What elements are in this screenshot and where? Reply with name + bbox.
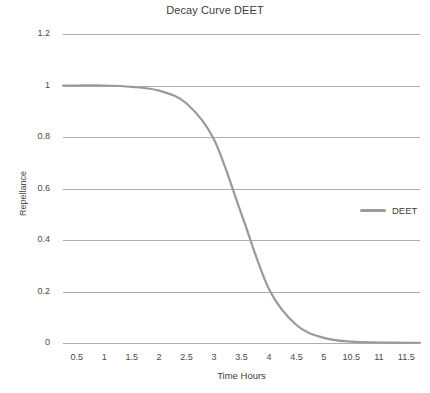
x-tick-label: 11 xyxy=(374,352,383,362)
x-tick-label: 5 xyxy=(321,352,326,362)
legend-label-deet: DEET xyxy=(392,205,417,216)
y-axis-tick-labels: 00.20.40.60.811.2 xyxy=(0,0,58,393)
x-tick-label: 2.5 xyxy=(180,352,193,362)
plot-area xyxy=(63,34,420,343)
chart-title: Decay Curve DEET xyxy=(0,4,430,16)
legend-swatch-deet xyxy=(360,209,386,212)
chart-legend: DEET xyxy=(360,205,417,216)
x-tick-label: 0.5 xyxy=(70,352,83,362)
x-axis-tick-labels: 0.511.522.533.544.5510.51111.5 xyxy=(63,352,420,366)
y-tick-label: 0 xyxy=(0,337,58,347)
x-tick-label: 4 xyxy=(266,352,271,362)
chart-container: Decay Curve DEET Repellance 00.20.40.60.… xyxy=(0,0,430,393)
x-tick-label: 1 xyxy=(102,352,107,362)
x-tick-label: 4.5 xyxy=(290,352,303,362)
x-tick-label: 3 xyxy=(212,352,217,362)
x-tick-label: 10.5 xyxy=(343,352,361,362)
x-axis-title: Time Hours xyxy=(63,370,420,381)
x-tick-label: 1.5 xyxy=(125,352,138,362)
x-tick-label: 11.5 xyxy=(398,352,415,362)
y-tick-label: 0.4 xyxy=(0,234,58,244)
y-tick-label: 1.2 xyxy=(0,28,58,38)
y-tick-label: 0.2 xyxy=(0,286,58,296)
x-tick-label: 3.5 xyxy=(235,352,248,362)
series-lines xyxy=(63,34,420,343)
y-tick-label: 0.8 xyxy=(0,131,58,141)
y-tick-label: 1 xyxy=(0,80,58,90)
y-tick-label: 0.6 xyxy=(0,183,58,193)
x-tick-label: 2 xyxy=(157,352,162,362)
